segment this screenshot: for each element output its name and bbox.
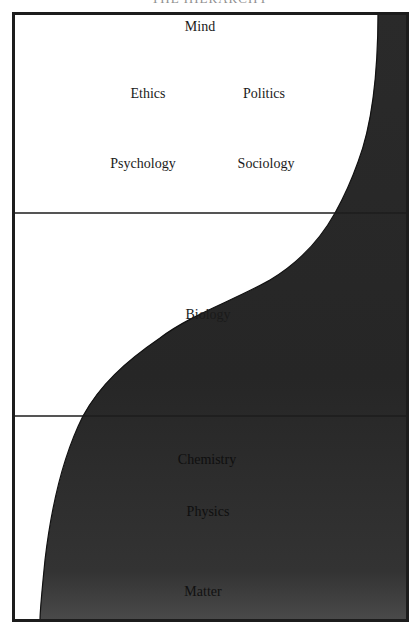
label-physics: Physics bbox=[187, 505, 230, 519]
label-sociology: Sociology bbox=[238, 157, 295, 171]
label-matter: Matter bbox=[184, 585, 221, 599]
label-politics: Politics bbox=[243, 87, 285, 101]
label-mind: Mind bbox=[185, 20, 215, 34]
label-ethics: Ethics bbox=[131, 87, 166, 101]
label-biology: Biology bbox=[185, 308, 230, 322]
label-psychology: Psychology bbox=[110, 157, 175, 171]
label-chemistry: Chemistry bbox=[178, 453, 236, 467]
